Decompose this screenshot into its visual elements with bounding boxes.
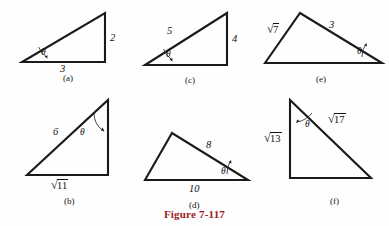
- triangle-outline-b: [27, 100, 108, 175]
- side-label-d-1: 8: [206, 139, 211, 150]
- triangle-outline-c: [145, 13, 227, 65]
- triangle-outline-d: [145, 133, 248, 180]
- panel-label-a: (a): [63, 73, 73, 83]
- triangle-b: [27, 100, 108, 175]
- panel-label-c: (c): [185, 75, 195, 85]
- panel-label-e: (e): [316, 74, 326, 84]
- panel-label-f: (f): [330, 196, 339, 206]
- side-label-c-1: 5: [167, 25, 172, 36]
- side-label-e-2: 3: [329, 19, 334, 30]
- panel-label-b: (b): [64, 196, 75, 206]
- triangle-outline-e: [265, 13, 382, 63]
- angle-arc-b: [94, 112, 104, 131]
- side-label-d-2: 10: [189, 183, 200, 194]
- theta-label-d: θ: [221, 166, 226, 176]
- triangle-e: [265, 13, 382, 63]
- theta-label-e: θ: [357, 46, 362, 56]
- theta-label-a: θ: [41, 47, 46, 57]
- figure-container: θ23(a)θ6√11(b)θ54(c)θ810(d)θ√73(e)θ√13√1…: [0, 0, 389, 226]
- side-label-a-1: 2: [110, 32, 115, 43]
- theta-label-b: θ: [80, 127, 85, 137]
- side-label-f-1: √13: [263, 131, 282, 146]
- triangle-d: [145, 133, 248, 180]
- figure-caption: Figure 7-117: [0, 208, 389, 220]
- side-label-c-2: 4: [232, 33, 237, 44]
- theta-label-f: θ: [305, 119, 310, 129]
- triangle-c: [145, 13, 227, 65]
- theta-label-c: θ: [166, 49, 171, 59]
- angle-arrowhead-f: [296, 119, 300, 123]
- side-label-b-2: √11: [50, 178, 68, 193]
- side-label-b-1: 6: [53, 126, 58, 137]
- side-label-e-1: √7: [266, 22, 279, 37]
- side-label-f-2: √17: [327, 112, 346, 127]
- triangle-outline-a: [22, 13, 105, 62]
- triangle-a: [22, 13, 105, 62]
- angle-arc-e: [362, 44, 366, 57]
